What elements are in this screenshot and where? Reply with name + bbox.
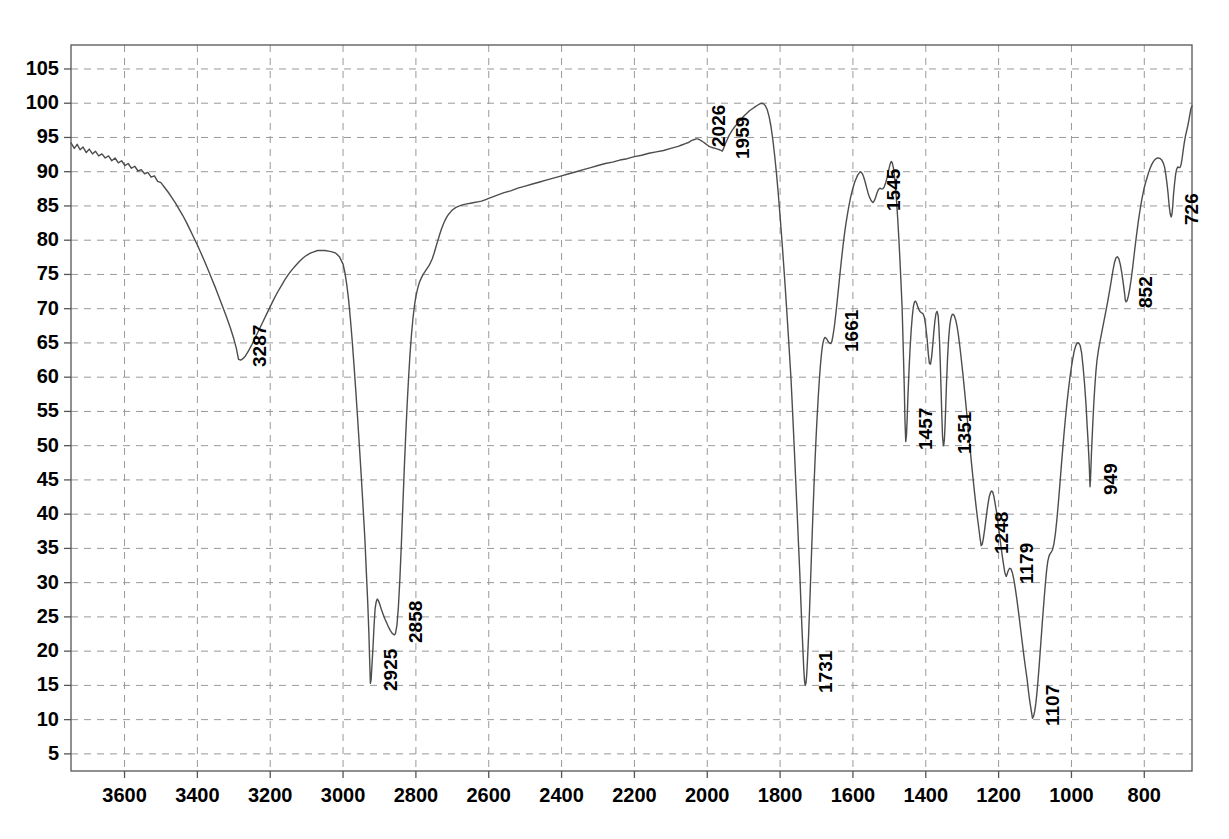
- x-axis-tick-label: 1400: [886, 784, 966, 807]
- x-axis-tick-label: 2200: [594, 784, 674, 807]
- y-axis-tick-label: 40: [13, 502, 59, 525]
- y-axis-tick-label: 60: [13, 365, 59, 388]
- peak-label-3287: 3287: [249, 325, 271, 367]
- y-axis-tick-label: 50: [13, 434, 59, 457]
- x-axis-tick-label: 2600: [449, 784, 529, 807]
- y-axis-tick-label: 20: [13, 639, 59, 662]
- peak-label-2858: 2858: [405, 600, 427, 642]
- x-axis-tick-label: 3600: [85, 784, 165, 807]
- y-axis-tick-label: 55: [13, 399, 59, 422]
- peak-label-1179: 1179: [1016, 543, 1038, 584]
- peak-label-1959: 1959: [732, 117, 754, 159]
- x-axis-tick-label: 1600: [813, 784, 893, 807]
- peak-label-1248: 1248: [991, 511, 1013, 553]
- peak-label-726: 726: [1181, 193, 1203, 225]
- y-axis-tick-label: 25: [13, 605, 59, 628]
- y-axis-tick-label: 70: [13, 297, 59, 320]
- peak-label-1107: 1107: [1042, 685, 1064, 726]
- y-axis-tick-label: 80: [13, 228, 59, 251]
- y-axis-tick-label: 35: [13, 536, 59, 559]
- peak-label-1731: 1731: [815, 651, 837, 693]
- x-axis-tick-label: 2400: [522, 784, 602, 807]
- y-axis-tick-label: 105: [13, 57, 59, 80]
- x-axis-tick-label: 3400: [157, 784, 237, 807]
- x-axis-tick-label: 800: [1104, 784, 1184, 807]
- y-axis-tick-label: 90: [13, 160, 59, 183]
- spectrum-curve: [71, 103, 1192, 718]
- peak-label-1457: 1457: [915, 407, 937, 449]
- y-axis-tick-label: 10: [13, 708, 59, 731]
- x-axis-tick-label: 3200: [230, 784, 310, 807]
- y-axis-tick-label: 100: [13, 91, 59, 114]
- y-axis-tick-label: 75: [13, 262, 59, 285]
- y-axis-tick-label: 5: [13, 742, 59, 765]
- peak-label-1351: 1351: [954, 411, 976, 453]
- peak-label-852: 852: [1135, 277, 1157, 309]
- y-axis-tick-label: 65: [13, 331, 59, 354]
- y-axis-tick-label: 85: [13, 194, 59, 217]
- y-axis-tick-label: 45: [13, 468, 59, 491]
- x-axis-tick-label: 2000: [667, 784, 747, 807]
- peak-label-1661: 1661: [841, 309, 863, 351]
- peak-label-949: 949: [1100, 463, 1122, 495]
- ftir-spectrum-figure: 5101520253035404550556065707580859095100…: [0, 0, 1229, 839]
- y-axis-tick-label: 95: [13, 125, 59, 148]
- x-axis-tick-label: 2800: [376, 784, 456, 807]
- x-axis-tick-label: 3000: [303, 784, 383, 807]
- x-axis-tick-label: 1200: [959, 784, 1039, 807]
- peak-label-2026: 2026: [708, 105, 730, 147]
- peak-label-2925: 2925: [380, 649, 402, 691]
- y-axis-tick-label: 30: [13, 571, 59, 594]
- peak-label-1545: 1545: [883, 168, 905, 210]
- x-axis-tick-label: 1000: [1031, 784, 1111, 807]
- y-axis-tick-label: 15: [13, 673, 59, 696]
- plot-frame: [71, 45, 1192, 771]
- x-axis-tick-label: 1800: [740, 784, 820, 807]
